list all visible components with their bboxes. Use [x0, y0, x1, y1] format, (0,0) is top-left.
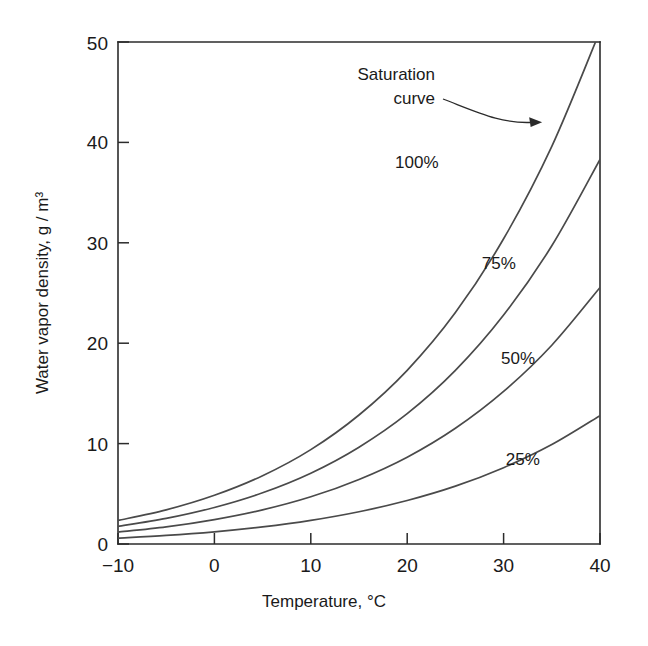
y-axis-title: Water vapor density, g / m³ — [33, 192, 52, 395]
x-axis-title: Temperature, °C — [262, 592, 386, 611]
x-ticklabel-40: 40 — [589, 555, 610, 576]
x-ticklabel-30: 30 — [493, 555, 514, 576]
y-ticklabel-0: 0 — [97, 534, 108, 555]
x-ticklabel-10: 10 — [300, 555, 321, 576]
x-ticklabel-0: 0 — [209, 555, 220, 576]
x-ticklabel-minus10: −10 — [102, 555, 134, 576]
y-ticklabel-10: 10 — [87, 434, 108, 455]
series-label-75: 75% — [482, 254, 516, 273]
y-ticklabel-50: 50 — [87, 33, 108, 54]
series-label-25: 25% — [506, 450, 540, 469]
series-label-50: 50% — [501, 349, 535, 368]
annotation-line-1: Saturation — [358, 65, 436, 84]
annotation-line-2: curve — [393, 89, 435, 108]
y-ticklabel-30: 30 — [87, 233, 108, 254]
series-label-100: 100% — [395, 153, 438, 172]
x-ticklabel-20: 20 — [397, 555, 418, 576]
chart-figure: 0 10 20 30 40 50 −10 0 10 20 30 40 Tempe… — [0, 0, 648, 646]
y-ticklabel-20: 20 — [87, 333, 108, 354]
y-ticklabel-40: 40 — [87, 132, 108, 153]
